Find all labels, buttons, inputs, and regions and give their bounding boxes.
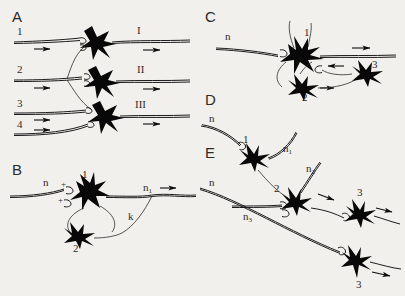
panel-e-neuron-label-3a: 3 — [357, 186, 363, 198]
panel-a-output-label-2: II — [137, 63, 145, 75]
panel-b-synapse-sign-2: + — [58, 195, 63, 205]
panel-b-synapse-sign-1: + — [61, 179, 66, 189]
neural-circuit-figure: A 1 I 2 II 3 — [0, 0, 405, 296]
panel-a-letter: A — [12, 8, 22, 25]
panel-c-neuron-label-1: 1 — [304, 26, 310, 38]
panel-b-fiber-label-n: n — [43, 176, 49, 188]
panel-c-fiber-label-n: n — [225, 30, 231, 42]
panel-a-output-label-1: I — [137, 24, 141, 36]
figure-background — [0, 0, 405, 296]
panel-e-fiber-label-n: n — [209, 176, 215, 188]
panel-d-fiber-label-n: n — [209, 112, 215, 124]
panel-a-input-label-4: 4 — [17, 118, 23, 130]
panel-a-input-label-2: 2 — [17, 63, 23, 75]
panel-e-neuron-label-2: 2 — [274, 182, 280, 194]
panel-a-output-label-3: III — [135, 98, 146, 110]
panel-c-letter: C — [205, 8, 216, 25]
panel-a-input-label-1: 1 — [17, 25, 23, 37]
panel-b-letter: B — [12, 161, 22, 178]
panel-d-neuron-label-1: 1 — [243, 133, 249, 145]
panel-b-collateral-label-k: k — [128, 210, 134, 222]
panel-d-letter: D — [205, 91, 216, 108]
panel-e-letter: E — [205, 144, 215, 161]
panel-a-input-label-3: 3 — [17, 97, 23, 109]
panel-c-neuron-label-3: 3 — [372, 58, 378, 70]
panel-e-neuron-label-3b: 3 — [356, 278, 362, 290]
